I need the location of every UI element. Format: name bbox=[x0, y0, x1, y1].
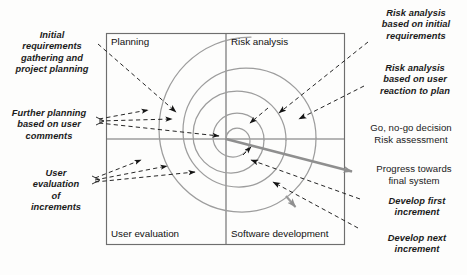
callout-develop-first-increment: Develop first increment bbox=[370, 196, 464, 219]
spiral-model-diagram: Planning Risk analysis User evaluation S… bbox=[0, 0, 467, 275]
callout-further-planning: Further planning based on user comments bbox=[2, 108, 96, 142]
quadrant-label-planning: Planning bbox=[111, 36, 149, 47]
leader-risk-user bbox=[299, 86, 364, 119]
callout-risk-analysis-initial: Risk analysis based on initial requireme… bbox=[368, 8, 464, 42]
leader-further-planning-2 bbox=[99, 119, 172, 121]
leader-develop-first bbox=[251, 160, 360, 199]
callout-go-no-go: Go, no-go decision Risk assessment bbox=[356, 122, 466, 146]
leader-initial-requirements bbox=[98, 44, 176, 112]
spiral-path bbox=[159, 37, 316, 212]
callout-user-evaluation-increments: User evaluation of increments bbox=[20, 168, 92, 214]
spiral-tail-arrow bbox=[286, 196, 296, 207]
callout-initial-requirements: Initial requirements gathering and proje… bbox=[6, 30, 98, 76]
callout-develop-next-increment: Develop next increment bbox=[370, 233, 464, 256]
callout-progress-final-system: Progress towards final system bbox=[362, 163, 466, 187]
callout-risk-analysis-user: Risk analysis based on user reaction to … bbox=[366, 63, 464, 97]
leader-lines-left bbox=[95, 44, 219, 182]
quadrant-label-software-development: Software development bbox=[231, 228, 328, 239]
quadrant-label-risk-analysis: Risk analysis bbox=[231, 36, 288, 47]
progress-arrow bbox=[226, 139, 352, 172]
leader-develop-next bbox=[273, 182, 358, 228]
quadrant-label-user-evaluation: User evaluation bbox=[111, 228, 179, 239]
leader-user-evaluation-2 bbox=[95, 166, 167, 180]
leader-risk-initial bbox=[279, 42, 368, 113]
leader-lines-right bbox=[251, 42, 368, 228]
